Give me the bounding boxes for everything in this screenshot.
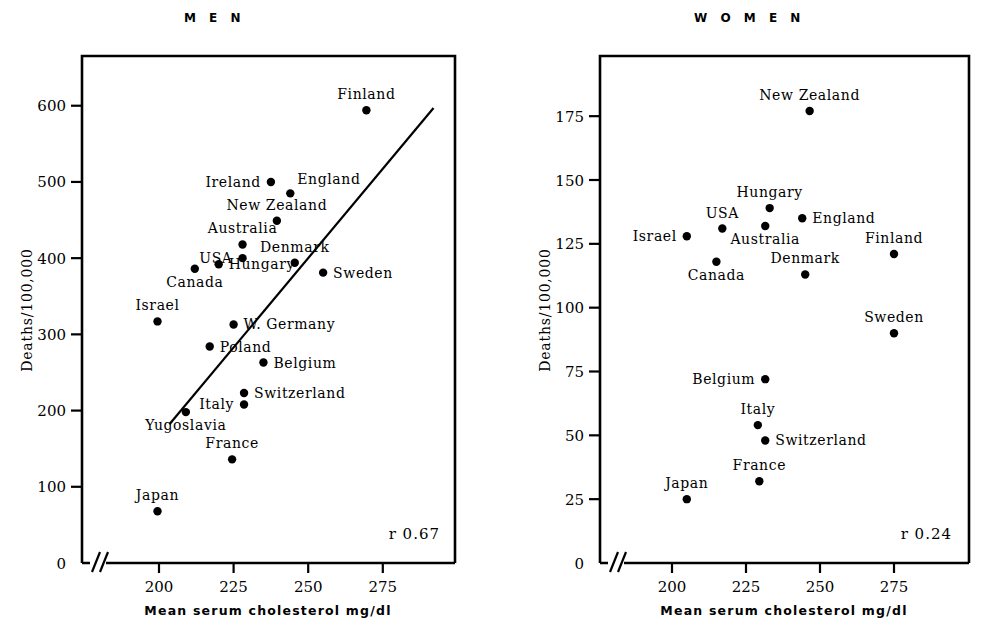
data-point-group: Israel <box>135 297 179 325</box>
data-point-label: France <box>205 435 259 451</box>
data-point-group: Switzerland <box>761 432 867 448</box>
data-point-label: Israel <box>633 228 677 244</box>
y-tick-label: 125 <box>555 235 584 253</box>
data-point-label: Hungary <box>229 256 295 272</box>
data-point-group: Italy <box>740 401 775 429</box>
data-point-label: Finland <box>865 230 923 246</box>
data-point-group: Denmark <box>770 250 840 278</box>
data-point-marker <box>718 224 726 232</box>
y-ticks-women: 0255075100125150175 <box>555 108 600 573</box>
data-point-group: Japan <box>663 475 708 503</box>
data-point-label: Italy <box>740 401 775 417</box>
scatter-figure: M E N 0100200300400500600 200225250275 D… <box>0 0 996 640</box>
x-axis-title-men: Mean serum cholesterol mg/dl <box>144 603 391 618</box>
data-point-marker <box>761 375 769 383</box>
data-point-marker <box>890 250 898 258</box>
data-point-label: England <box>812 210 875 226</box>
data-point-marker <box>761 222 769 230</box>
data-point-marker <box>259 358 267 366</box>
data-point-label: England <box>297 171 360 187</box>
data-point-label: USA <box>706 205 740 221</box>
y-axis-title-men: Deaths/100,000 <box>19 248 35 372</box>
x-tick-label: 275 <box>880 578 909 596</box>
data-point-label: Canada <box>688 267 745 283</box>
data-point-marker <box>206 342 214 350</box>
data-point-label: France <box>733 457 787 473</box>
data-point-group: Canada <box>166 265 223 290</box>
axis-break-icon-men <box>92 552 108 572</box>
x-tick-label: 200 <box>658 578 687 596</box>
data-point-group: Italy <box>199 396 248 412</box>
data-point-marker <box>291 259 299 267</box>
y-tick-label: 600 <box>37 97 66 115</box>
data-point-label: Sweden <box>864 309 924 325</box>
data-point-group: Israel <box>633 228 691 244</box>
data-point-marker <box>214 260 222 268</box>
data-point-label: New Zealand <box>759 87 860 103</box>
y-ticks-men: 0100200300400500600 <box>37 97 82 572</box>
data-point-label: Poland <box>220 339 272 355</box>
data-point-group: Japan <box>134 487 179 515</box>
data-point-group: France <box>205 435 259 463</box>
data-points-women: New ZealandHungaryEnglandUSAAustraliaIsr… <box>633 87 924 503</box>
data-point-group: Belgium <box>259 355 336 371</box>
x-ticks-men: 200225250275 <box>145 563 397 596</box>
data-point-group: England <box>286 171 360 197</box>
data-point-label: Canada <box>166 274 223 290</box>
y-tick-label: 75 <box>565 363 584 381</box>
data-point-marker <box>229 320 237 328</box>
data-point-marker <box>267 178 275 186</box>
data-point-label: Israel <box>135 297 179 313</box>
data-point-label: Italy <box>199 396 234 412</box>
data-point-marker <box>683 495 691 503</box>
y-tick-label: 300 <box>37 326 66 344</box>
panel-title-men: M E N <box>184 11 245 25</box>
data-point-group: W. Germany <box>229 316 335 332</box>
data-point-marker <box>801 270 809 278</box>
x-tick-label: 225 <box>732 578 761 596</box>
data-point-marker <box>798 214 806 222</box>
correlation-label-women: r 0.24 <box>901 525 952 543</box>
data-point-label: Australia <box>729 231 800 247</box>
data-point-group: Sweden <box>319 265 393 281</box>
data-point-label: Belgium <box>273 355 336 371</box>
y-tick-label: 0 <box>56 555 66 573</box>
data-point-group: New Zealand <box>759 87 860 115</box>
y-tick-label: 175 <box>555 108 584 126</box>
data-point-group: France <box>733 457 787 485</box>
x-ticks-women: 200225250275 <box>658 563 909 596</box>
data-point-group: Belgium <box>692 371 769 387</box>
data-point-label: Japan <box>663 475 708 491</box>
data-point-marker <box>890 329 898 337</box>
data-point-label: Japan <box>134 487 179 503</box>
data-point-label: Switzerland <box>254 385 345 401</box>
data-point-marker <box>238 240 246 248</box>
data-point-marker <box>228 455 236 463</box>
axis-break-icon-women <box>610 552 626 572</box>
data-point-marker <box>712 258 720 266</box>
data-point-marker <box>805 107 813 115</box>
panel-men: M E N 0100200300400500600 200225250275 D… <box>19 11 455 618</box>
data-point-label: Denmark <box>770 250 840 266</box>
data-point-marker <box>153 507 161 515</box>
y-tick-label: 400 <box>37 250 66 268</box>
y-tick-label: 500 <box>37 173 66 191</box>
data-point-group: Finland <box>337 86 395 114</box>
x-tick-label: 250 <box>294 578 323 596</box>
data-point-group: Finland <box>865 230 923 258</box>
data-point-group: USA <box>706 205 740 233</box>
x-axis-title-women: Mean serum cholesterol mg/dl <box>660 603 907 618</box>
data-point-label: Sweden <box>333 265 393 281</box>
panel-title-women: W O M E N <box>694 11 805 25</box>
data-point-marker <box>240 389 248 397</box>
y-tick-label: 200 <box>37 402 66 420</box>
data-point-marker <box>755 477 763 485</box>
data-point-group: Canada <box>688 258 745 283</box>
data-point-group: Ireland <box>205 174 275 190</box>
data-point-group: Poland <box>206 339 272 355</box>
data-point-marker <box>153 317 161 325</box>
y-tick-label: 100 <box>37 478 66 496</box>
data-point-label: Denmark <box>260 239 330 255</box>
y-tick-label: 50 <box>565 427 584 445</box>
y-tick-label: 25 <box>565 491 584 509</box>
